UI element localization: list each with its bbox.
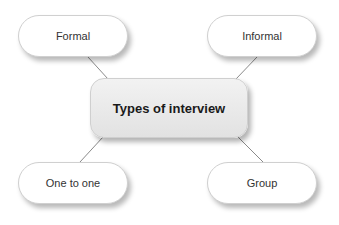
node-group: Group (207, 162, 317, 204)
node-group-label: Group (247, 177, 278, 189)
central-node: Types of interview (90, 78, 248, 138)
connector-informal (236, 57, 257, 79)
node-one-to-one-label: One to one (46, 177, 100, 189)
central-node-label: Types of interview (113, 101, 225, 116)
node-one-to-one: One to one (18, 162, 128, 204)
node-informal: Informal (207, 15, 317, 57)
connector-one-to-one (80, 137, 103, 162)
connector-formal (88, 57, 108, 79)
connector-group (238, 137, 263, 162)
node-formal-label: Formal (56, 30, 90, 42)
node-formal: Formal (18, 15, 128, 57)
node-informal-label: Informal (242, 30, 282, 42)
